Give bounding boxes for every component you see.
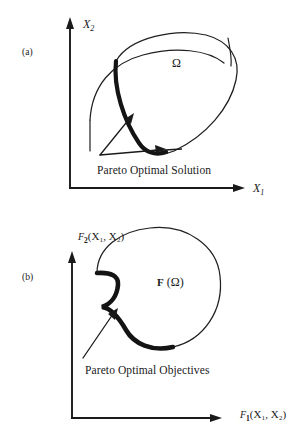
panel-b-x-axis-label: F1(X₁, X₂) (239, 408, 287, 423)
panel-a-y-axis-label-sub: 2 (90, 24, 94, 33)
panel-b-y-axis-label: F2(X₁, X₂) (77, 230, 125, 245)
figure-container: (a) X2 X1 (0, 0, 307, 435)
omega-label: Ω (172, 56, 181, 70)
panel-b-label: (b) (22, 272, 33, 283)
svg-text:X2: X2 (82, 17, 94, 33)
panel-b-y-axis (68, 251, 76, 418)
annotation-arrow (83, 308, 118, 358)
panel-a-x-axis-label-sub: 1 (260, 188, 264, 197)
panel-a: (a) X2 X1 (0, 0, 307, 218)
f-omega-label-f: F (157, 276, 164, 288)
annotation-arrow-upper (100, 113, 134, 155)
svg-text:F(Ω): F(Ω) (157, 275, 184, 289)
constraint-curve-right-tail (228, 38, 231, 66)
panel-b-x-axis (72, 414, 222, 422)
panel-b-y-axis-label-args: (X₁, X₂) (88, 230, 125, 243)
svg-text:F1(X₁, X₂): F1(X₁, X₂) (239, 408, 287, 423)
constraint-curve (90, 50, 224, 120)
f-omega-label: F(Ω) (157, 275, 184, 289)
svg-text:X1: X1 (252, 181, 264, 197)
cut-off-caption-text (0, 426, 2, 435)
panel-a-label: (a) (22, 47, 33, 58)
cut-off-caption (0, 426, 307, 435)
pareto-optimal-solution-curve (116, 61, 166, 154)
panel-a-y-axis-label: X2 (82, 17, 94, 33)
panel-a-y-axis (66, 17, 74, 188)
panel-b: (b) F2(X₁, X₂) F1(X₁, X₂) (0, 218, 307, 435)
f-omega-label-rest: (Ω) (167, 275, 184, 289)
panel-a-x-axis-label: X1 (252, 181, 264, 197)
panel-b-annotation: Pareto Optimal Objectives (85, 364, 210, 377)
panel-a-annotation: Pareto Optimal Solution (97, 164, 211, 177)
panel-a-x-axis (70, 184, 245, 192)
svg-text:F2(X₁, X₂): F2(X₁, X₂) (77, 230, 125, 245)
panel-b-x-axis-label-args: (X₁, X₂) (250, 408, 287, 421)
